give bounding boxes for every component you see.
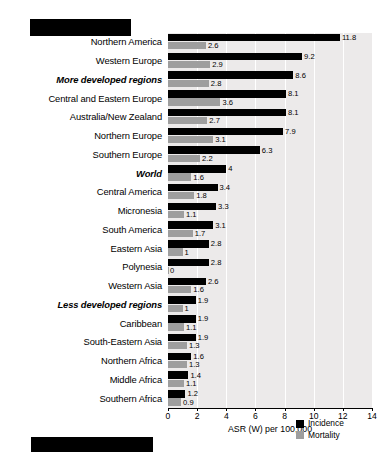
value-label-mortality: 3.1: [215, 136, 226, 144]
bar-incidence: [168, 334, 196, 341]
bar-mortality: [168, 342, 187, 349]
bar-incidence: [168, 203, 216, 210]
bar-incidence: [168, 296, 196, 303]
bar-group: 2.80: [168, 258, 372, 277]
value-label-incidence: 8.1: [288, 90, 299, 98]
bar-mortality: [168, 286, 191, 293]
bar-group: 2.81: [168, 239, 372, 258]
value-label-mortality: 1: [185, 249, 189, 257]
value-label-mortality: 1.6: [193, 286, 204, 294]
category-label: Western Europe: [0, 52, 165, 71]
x-axis-line: [168, 408, 372, 409]
bar-group: 6.32.2: [168, 146, 372, 165]
category-label: Northern America: [0, 33, 165, 52]
x-tick-label: 6: [253, 412, 258, 421]
value-label-mortality: 2.6: [208, 42, 219, 50]
bar-group: 41.6: [168, 164, 372, 183]
value-label-mortality: 2.8: [211, 80, 222, 88]
bar-incidence: [168, 353, 191, 360]
bar-group: 3.31.1: [168, 202, 372, 221]
bar-chart: Northern America11.82.6Western Europe9.2…: [0, 33, 388, 408]
bar-mortality: [168, 305, 183, 312]
value-label-incidence: 1.2: [187, 390, 198, 398]
x-tick-label: 14: [367, 412, 377, 421]
bar-incidence: [168, 71, 293, 78]
chart-rows: Northern America11.82.6Western Europe9.2…: [0, 33, 388, 408]
bar-mortality: [168, 380, 184, 387]
category-label: Western Asia: [0, 277, 165, 296]
bar-mortality: [168, 155, 200, 162]
bar-group: 1.20.9: [168, 389, 372, 408]
bar-incidence: [168, 109, 286, 116]
value-label-mortality: 1.1: [186, 324, 197, 332]
value-label-mortality: 0: [170, 267, 174, 275]
bar-incidence: [168, 34, 340, 41]
bar-incidence: [168, 128, 283, 135]
value-label-incidence: 3.3: [218, 203, 229, 211]
value-label-incidence: 1.9: [198, 315, 209, 323]
bar-mortality: [168, 267, 169, 274]
bar-mortality: [168, 98, 220, 105]
bar-group: 9.22.9: [168, 52, 372, 71]
bar-group: 8.12.7: [168, 108, 372, 127]
bar-group: 1.41.1: [168, 371, 372, 390]
bar-incidence: [168, 278, 206, 285]
bar-incidence: [168, 184, 218, 191]
bar-mortality: [168, 173, 191, 180]
legend-item-mortality: Mortality: [296, 431, 344, 440]
value-label-incidence: 7.9: [285, 128, 296, 136]
category-label: Southern Europe: [0, 146, 165, 165]
bar-group: 3.41.8: [168, 183, 372, 202]
category-label: Northern Europe: [0, 127, 165, 146]
bar-incidence: [168, 90, 286, 97]
legend-swatch-mortality: [296, 431, 304, 439]
bar-mortality: [168, 361, 187, 368]
bar-incidence: [168, 259, 209, 266]
category-label: Central America: [0, 183, 165, 202]
value-label-mortality: 1.3: [189, 361, 200, 369]
category-label: Polynesia: [0, 258, 165, 277]
value-label-incidence: 4: [228, 165, 232, 173]
value-label-incidence: 1.9: [198, 297, 209, 305]
value-label-mortality: 2.9: [212, 61, 223, 69]
bar-mortality: [168, 323, 184, 330]
bar-group: 1.91: [168, 296, 372, 315]
bar-group: 1.61.3: [168, 352, 372, 371]
bar-mortality: [168, 80, 209, 87]
bar-group: 8.62.8: [168, 71, 372, 90]
value-label-mortality: 0.9: [183, 399, 194, 407]
value-label-incidence: 2.6: [208, 278, 219, 286]
bar-incidence: [168, 315, 196, 322]
bar-group: 2.61.6: [168, 277, 372, 296]
value-label-incidence: 8.1: [288, 109, 299, 117]
category-label: Northern Africa: [0, 352, 165, 371]
value-label-mortality: 1.3: [189, 342, 200, 350]
legend-label-incidence: Incidence: [308, 419, 344, 428]
value-label-incidence: 11.8: [342, 34, 356, 42]
bar-group: 3.11.7: [168, 221, 372, 240]
category-label: Caribbean: [0, 314, 165, 333]
value-label-mortality: 3.6: [222, 99, 233, 107]
value-label-mortality: 1.8: [196, 192, 207, 200]
bar-incidence: [168, 53, 302, 60]
x-tick-label: 2: [195, 412, 200, 421]
chart-legend: Incidence Mortality: [296, 419, 344, 442]
bar-mortality: [168, 248, 183, 255]
category-label: Middle Africa: [0, 371, 165, 390]
value-label-mortality: 2.2: [202, 155, 213, 163]
bar-mortality: [168, 211, 184, 218]
value-label-incidence: 2.8: [211, 240, 222, 248]
category-label: More developed regions: [0, 71, 165, 90]
bar-group: 1.91.3: [168, 333, 372, 352]
bar-mortality: [168, 230, 193, 237]
value-label-mortality: 1.1: [186, 380, 197, 388]
value-label-mortality: 1.6: [193, 174, 204, 182]
bar-incidence: [168, 390, 185, 397]
value-label-incidence: 8.6: [295, 72, 306, 80]
category-label: World: [0, 164, 165, 183]
value-label-mortality: 2.7: [209, 117, 220, 125]
value-label-incidence: 2.8: [211, 259, 222, 267]
category-label: Micronesia: [0, 202, 165, 221]
value-label-incidence: 3.4: [220, 184, 231, 192]
chart-page: Northern America11.82.6Western Europe9.2…: [0, 0, 388, 472]
